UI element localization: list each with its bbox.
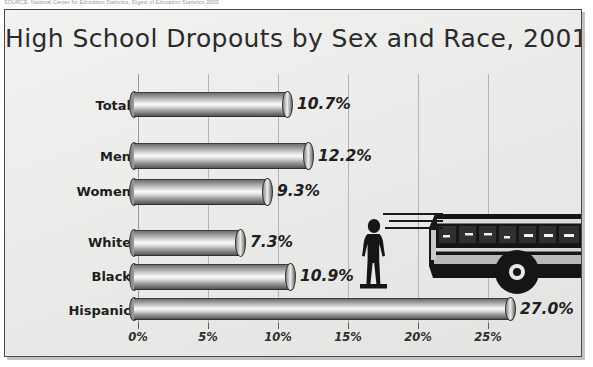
bar-cap-right-hispanic <box>505 297 516 321</box>
xaxis-tick-label-25: 25% <box>466 330 510 344</box>
value-label-total: 10.7% <box>297 95 351 113</box>
bar-body-hispanic <box>134 298 510 320</box>
bar-body-men <box>134 143 308 169</box>
source-credit-line: SOURCE: National Center for Education St… <box>4 0 564 7</box>
bar-body-white <box>134 230 240 256</box>
xaxis-tick-label-0: 0% <box>116 330 160 344</box>
chart-frame: High School Dropouts by Sex and Race, 20… <box>4 9 582 357</box>
school-bus-illustration <box>355 200 582 300</box>
xaxis-tick-label-20: 20% <box>396 330 440 344</box>
school-bus <box>429 214 581 294</box>
category-label-women: Women <box>11 184 131 199</box>
value-label-men: 12.2% <box>318 147 372 165</box>
bar-cap-right-black <box>285 263 296 291</box>
xaxis-tick-label-10: 10% <box>256 330 300 344</box>
bar-men[interactable] <box>134 143 308 169</box>
value-label-white: 7.3% <box>250 233 293 251</box>
tick-mark-15 <box>348 323 349 329</box>
tick-mark-5 <box>208 323 209 329</box>
category-label-white: White <box>11 235 131 250</box>
tick-mark-25 <box>488 323 489 329</box>
value-label-women: 9.3% <box>277 182 320 200</box>
speed-line-3 <box>385 227 443 229</box>
bar-black[interactable] <box>134 264 290 290</box>
category-label-men: Men <box>11 149 131 164</box>
bar-body-women <box>134 179 267 205</box>
bar-cap-right-white <box>235 229 246 257</box>
bar-white[interactable] <box>134 230 240 256</box>
bar-total[interactable] <box>134 92 287 117</box>
category-label-black: Black <box>11 269 131 284</box>
value-label-black: 10.9% <box>300 267 354 285</box>
illustration-svg <box>355 200 582 300</box>
bar-body-black <box>134 264 290 290</box>
category-label-hispanic: Hispanic <box>11 303 131 318</box>
standing-person-silhouette <box>360 219 387 289</box>
tick-mark-20 <box>418 323 419 329</box>
xaxis-tick-label-5: 5% <box>186 330 230 344</box>
value-label-hispanic: 27.0% <box>520 300 574 318</box>
bar-cap-right-total <box>282 91 293 118</box>
bar-cap-right-men <box>303 142 314 170</box>
speed-line-1 <box>383 213 443 215</box>
bar-hispanic[interactable] <box>134 298 510 320</box>
tick-mark-10 <box>278 323 279 329</box>
speed-line-2 <box>389 220 443 222</box>
bar-cap-right-women <box>262 178 273 206</box>
tick-mark-0 <box>138 323 139 329</box>
plot-area: 0% 5% 10% 15% 20% 25% <box>5 10 582 357</box>
xaxis-tick-label-15: 15% <box>326 330 370 344</box>
bar-women[interactable] <box>134 179 267 205</box>
category-label-total: Total <box>11 98 131 113</box>
bar-body-total <box>134 92 287 117</box>
